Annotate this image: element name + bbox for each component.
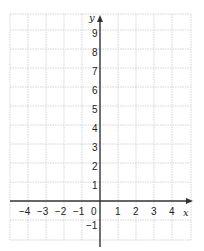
x-tick-neg2: −2: [55, 206, 67, 217]
x-tick-3: 3: [151, 206, 157, 217]
coordinate-plane: y x 9 8 7 6 5 4 3 2 1 −1 −4 −3 −2 −1 0 1…: [0, 0, 204, 251]
x-tick-neg1: −1: [73, 206, 85, 217]
y-tick-7: 7: [92, 66, 98, 77]
y-axis-label: y: [88, 12, 95, 23]
y-tick-2: 2: [92, 161, 98, 172]
x-tick-labels: −4 −3 −2 −1 0 1 2 3 4: [19, 206, 175, 217]
y-tick-8: 8: [92, 47, 98, 58]
y-tick-4: 4: [92, 123, 98, 134]
x-tick-1: 1: [115, 206, 121, 217]
y-tick-1: 1: [92, 180, 98, 191]
x-tick-neg3: −3: [37, 206, 49, 217]
x-tick-4: 4: [169, 206, 175, 217]
y-tick-neg1: −1: [86, 220, 98, 231]
x-axis-arrow-icon: [186, 198, 193, 204]
x-tick-2: 2: [133, 206, 139, 217]
x-axis-label: x: [183, 207, 189, 218]
y-axis-arrow-icon: [97, 15, 103, 22]
x-tick-0: 0: [91, 206, 97, 217]
y-tick-6: 6: [92, 85, 98, 96]
y-tick-5: 5: [92, 104, 98, 115]
x-tick-neg4: −4: [19, 206, 31, 217]
y-tick-9: 9: [92, 28, 98, 39]
y-tick-3: 3: [92, 142, 98, 153]
